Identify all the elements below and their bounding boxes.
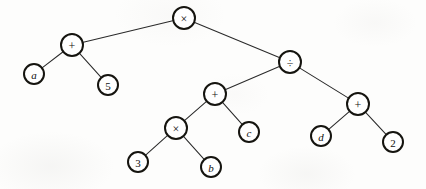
node-label: 3 [135, 157, 141, 169]
edge-plus-left-to-a [42, 52, 62, 68]
edge-times-to-3 [146, 136, 167, 155]
edge-plus-right-to-d [329, 112, 349, 129]
node-label: × [173, 122, 180, 136]
node-label: d [318, 131, 324, 143]
edge-divide-to-plus-mid [226, 67, 280, 90]
tree-node-d[interactable]: d [311, 126, 331, 146]
tree-node-plus[interactable]: + [204, 83, 226, 105]
expression-tree-figure: ×+÷a5++×cd23b [0, 0, 426, 189]
nodes-layer: ×+÷a5++×cd23b [24, 7, 403, 177]
tree-node-5[interactable]: 5 [98, 75, 118, 95]
node-label: c [247, 127, 252, 139]
node-label: 2 [390, 137, 396, 149]
node-label: a [31, 69, 37, 81]
tree-node-plus[interactable]: + [61, 34, 83, 56]
tree-node-times[interactable]: × [173, 7, 195, 29]
tree-node-c[interactable]: c [239, 122, 259, 142]
edge-plus-mid-to-times [185, 102, 207, 121]
node-label: + [355, 98, 362, 112]
edge-divide-to-plus-right [300, 68, 348, 98]
node-label: b [208, 162, 214, 174]
tree-node-2[interactable]: 2 [383, 132, 403, 152]
tree-node-a[interactable]: a [24, 64, 44, 84]
tree-node-3[interactable]: 3 [128, 152, 148, 172]
tree-node-plus[interactable]: + [347, 93, 369, 115]
node-label: ÷ [287, 56, 294, 70]
tree-node-divide[interactable]: ÷ [279, 51, 301, 73]
node-label: 5 [105, 80, 111, 92]
node-label: × [181, 12, 188, 26]
edge-root-to-divide [195, 22, 280, 57]
edge-plus-mid-to-c [223, 103, 242, 124]
node-label: + [212, 88, 219, 102]
edge-times-to-b [184, 137, 204, 159]
edge-root-to-plus-left [83, 21, 172, 43]
tree-canvas: ×+÷a5++×cd23b [0, 0, 426, 189]
node-label: + [69, 39, 76, 53]
edge-plus-right-to-2 [366, 113, 386, 135]
tree-node-times[interactable]: × [165, 117, 187, 139]
tree-node-b[interactable]: b [201, 157, 221, 177]
edge-plus-left-to-5 [80, 54, 101, 78]
